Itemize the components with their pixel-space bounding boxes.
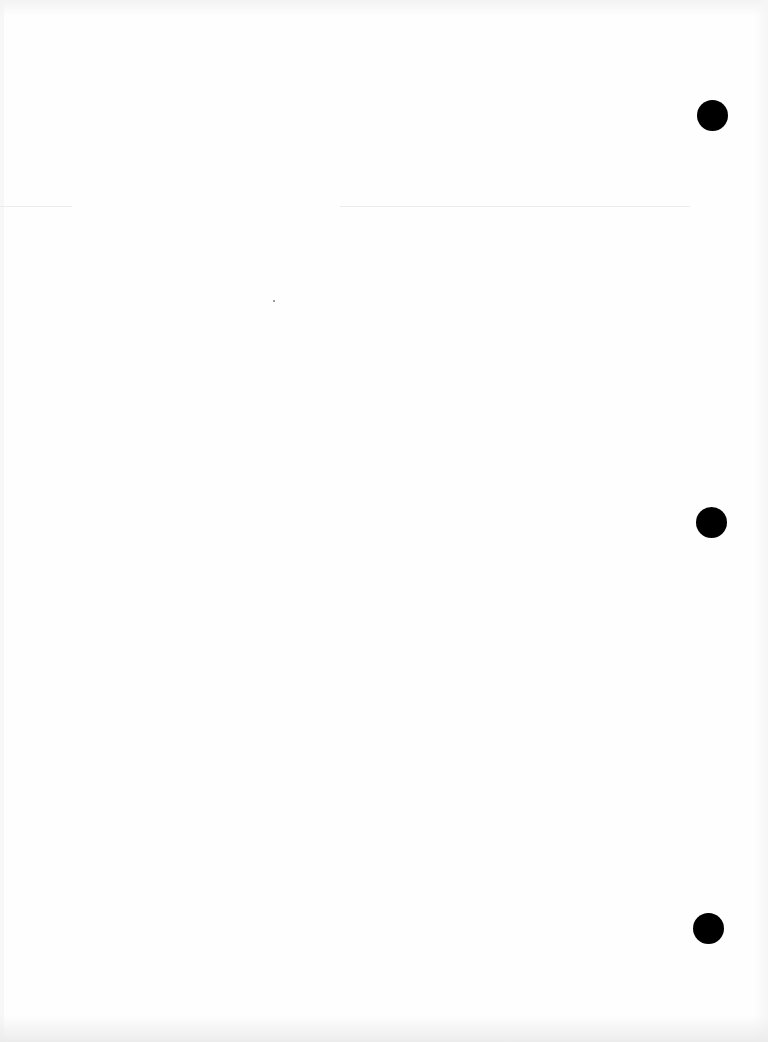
scanned-blank-page	[0, 0, 768, 1042]
right-page-edge	[754, 0, 768, 1042]
punch-hole-middle	[696, 507, 727, 538]
top-scan-shadow	[0, 0, 768, 16]
punch-hole-top	[697, 100, 728, 131]
fold-crease-left	[0, 206, 72, 207]
fold-crease-right	[340, 206, 690, 207]
bottom-scan-shadow	[0, 1016, 768, 1042]
punch-hole-bottom	[693, 913, 724, 944]
left-page-edge	[0, 0, 4, 1042]
dust-speck	[273, 300, 275, 302]
